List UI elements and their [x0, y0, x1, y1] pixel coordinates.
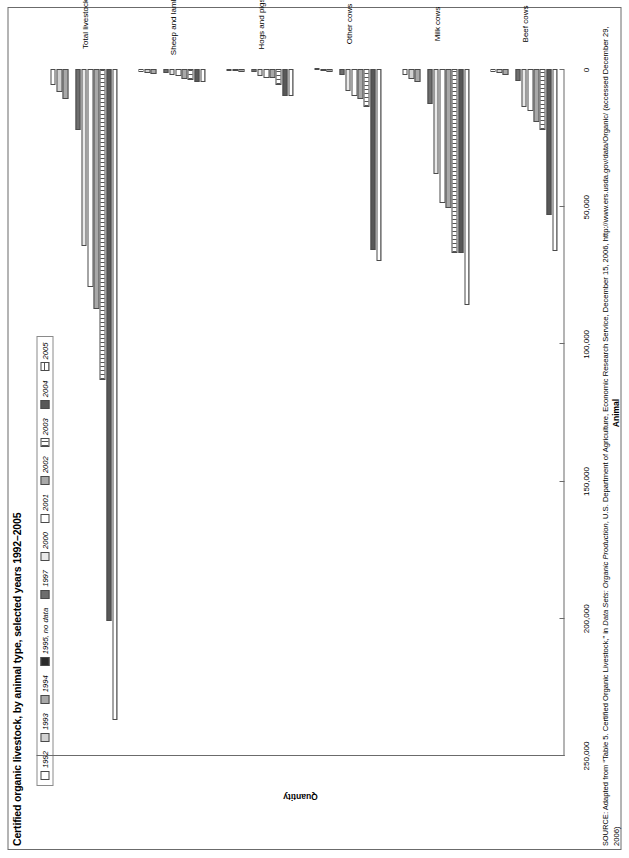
bar: [87, 69, 93, 287]
bar: [56, 69, 62, 92]
figure-page: Certified organic livestock, by animal t…: [0, 0, 629, 858]
bar: [169, 69, 175, 75]
bar: [458, 69, 464, 253]
bar-group: [314, 69, 382, 755]
bar: [99, 69, 105, 380]
category-label: Sheep and lambs: [168, 0, 177, 55]
axis-tick-label: 0: [581, 68, 590, 72]
bar: [50, 69, 56, 85]
axis-tick: [559, 618, 564, 619]
bar: [427, 69, 433, 104]
page-title: Certified organic livestock, by animal t…: [10, 513, 22, 846]
bar: [445, 69, 451, 208]
y-axis-line: [36, 755, 564, 756]
axis-tick-label: 250,000: [581, 742, 590, 771]
bar: [226, 69, 232, 71]
category-label: Hogs and pigs: [256, 0, 265, 50]
bar: [451, 69, 457, 253]
bar: [263, 69, 269, 78]
bar: [533, 69, 539, 122]
bar: [408, 69, 414, 79]
rotated-page-wrapper: Certified organic livestock, by animal t…: [0, 0, 629, 858]
bar: [282, 69, 288, 96]
bar: [232, 69, 238, 71]
bar: [339, 69, 345, 75]
bar: [181, 69, 187, 79]
bar: [288, 69, 294, 96]
source-note: SOURCE: Adapted from “Table 5. Certified…: [600, 12, 621, 846]
bar: [314, 68, 320, 70]
bar: [200, 69, 206, 82]
bar: [175, 69, 181, 76]
category-label: Beef cows: [520, 6, 529, 43]
bar: [439, 69, 445, 203]
bar: [433, 69, 439, 174]
bar: [376, 69, 382, 261]
source-label: SOURCE: [600, 814, 609, 846]
legend-swatch-icon: [40, 771, 49, 780]
bar: [502, 69, 508, 75]
bar-group: [226, 69, 294, 755]
bar: [370, 69, 376, 250]
y-axis-title: Quantity: [283, 792, 317, 802]
chart-plot-area: 250,000200,000150,000100,00050,0000Beef …: [36, 70, 564, 756]
bar: [194, 69, 200, 82]
bar: [106, 69, 112, 621]
axis-tick-label: 100,000: [581, 330, 590, 359]
bar: [150, 69, 156, 74]
x-axis-line: [563, 70, 564, 756]
bar-group: [138, 69, 206, 755]
axis-tick: [559, 755, 564, 756]
bar: [187, 69, 193, 80]
bar: [363, 69, 369, 107]
category-label: Milk cows: [432, 7, 441, 42]
bar-group: [50, 69, 118, 755]
bar: [402, 69, 408, 75]
bar: [345, 69, 351, 91]
bar: [539, 69, 545, 130]
bar: [357, 69, 363, 99]
axis-tick-label: 150,000: [581, 467, 590, 496]
bar: [112, 69, 118, 720]
axis-tick-label: 200,000: [581, 604, 590, 633]
bar: [81, 69, 87, 246]
bar: [521, 69, 527, 107]
category-label: Other cows: [344, 4, 353, 44]
bar: [257, 69, 263, 76]
bar: [515, 69, 521, 81]
category-label: Total livestock: [80, 0, 89, 49]
bar: [414, 69, 420, 82]
axis-tick: [559, 206, 564, 207]
bar: [351, 69, 357, 96]
bar: [62, 69, 68, 99]
bar: [163, 69, 169, 73]
axis-tick-label: 50,000: [581, 195, 590, 219]
bar: [75, 69, 81, 130]
bar: [326, 69, 332, 72]
bar: [490, 69, 496, 72]
bar-group: [402, 69, 470, 755]
bar: [238, 69, 244, 72]
y-axis-title-wrapper: Quantity: [36, 795, 564, 796]
bar: [93, 69, 99, 309]
bar: [496, 69, 502, 73]
bar: [552, 69, 558, 251]
axis-tick: [559, 481, 564, 482]
axis-tick: [559, 69, 564, 70]
bar: [269, 69, 275, 78]
bar: [275, 69, 281, 85]
bar: [527, 69, 533, 111]
bar: [138, 69, 144, 72]
bar: [320, 69, 326, 71]
bar: [251, 69, 257, 72]
bar-group: [490, 69, 558, 755]
source-publication-title: Data Sets: Organic Production: [600, 523, 609, 626]
axis-tick: [559, 343, 564, 344]
bar: [546, 69, 552, 215]
bar: [464, 69, 470, 305]
bar: [144, 69, 150, 73]
source-text-1: : Adapted from “Table 5. Certified Organ…: [600, 626, 609, 814]
